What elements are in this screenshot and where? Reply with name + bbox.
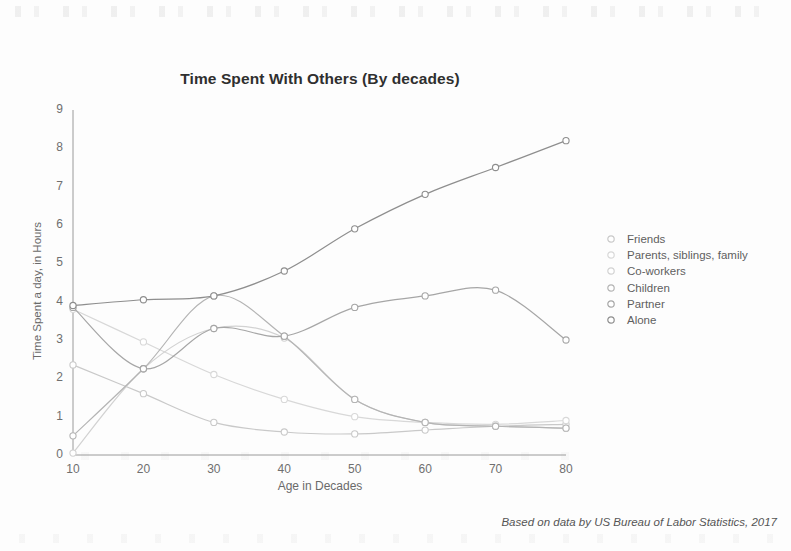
- y-tick-4: 4: [39, 294, 63, 308]
- legend-item-label: Children: [619, 282, 670, 294]
- legend-circle-marker-icon: [603, 265, 619, 277]
- data-point: [352, 431, 358, 437]
- data-point: [70, 433, 76, 439]
- data-point: [211, 371, 217, 377]
- data-point: [492, 423, 498, 429]
- axes: [73, 110, 566, 455]
- legend-item-friends[interactable]: Friends: [603, 231, 788, 247]
- data-point: [70, 450, 76, 456]
- legend-item-partner[interactable]: Partner: [603, 296, 788, 312]
- x-tick-20: 20: [123, 462, 163, 476]
- data-point: [140, 366, 146, 372]
- data-point: [281, 333, 287, 339]
- legend-item-label: Friends: [619, 233, 665, 245]
- y-tick-8: 8: [39, 140, 63, 154]
- y-tick-2: 2: [39, 370, 63, 384]
- data-point: [422, 427, 428, 433]
- data-point: [563, 417, 569, 423]
- legend-item-alone[interactable]: Alone: [603, 312, 788, 328]
- data-point: [281, 429, 287, 435]
- data-point: [422, 419, 428, 425]
- legend-circle-marker-icon: [603, 282, 619, 294]
- x-tick-60: 60: [405, 462, 445, 476]
- y-tick-9: 9: [39, 102, 63, 116]
- x-tick-50: 50: [335, 462, 375, 476]
- legend-item-label: Partner: [619, 298, 665, 310]
- y-tick-1: 1: [39, 409, 63, 423]
- legend-item-label: Parents, siblings, family: [619, 249, 748, 261]
- data-point: [422, 191, 428, 197]
- data-point: [70, 302, 76, 308]
- legend-circle-marker-icon: [603, 298, 619, 310]
- data-point: [352, 414, 358, 420]
- series-line: [73, 141, 566, 306]
- data-point: [492, 287, 498, 293]
- y-tick-5: 5: [39, 255, 63, 269]
- data-point: [422, 293, 428, 299]
- x-tick-70: 70: [476, 462, 516, 476]
- y-tick-3: 3: [39, 332, 63, 346]
- legend-item-label: Alone: [619, 314, 656, 326]
- x-tick-30: 30: [194, 462, 234, 476]
- data-point: [352, 304, 358, 310]
- data-point: [140, 339, 146, 345]
- data-point: [352, 226, 358, 232]
- data-point: [211, 419, 217, 425]
- y-tick-7: 7: [39, 179, 63, 193]
- data-series-group: [70, 138, 569, 457]
- data-point: [281, 396, 287, 402]
- series-line: [73, 309, 566, 424]
- data-point: [563, 337, 569, 343]
- x-tick-40: 40: [264, 462, 304, 476]
- legend-item-label: Co-workers: [619, 265, 686, 277]
- data-point: [281, 268, 287, 274]
- data-point: [140, 297, 146, 303]
- legend-item-children[interactable]: Children: [603, 280, 788, 296]
- data-point: [140, 391, 146, 397]
- legend-circle-marker-icon: [603, 233, 619, 245]
- data-point: [492, 164, 498, 170]
- series-alone: [70, 138, 569, 309]
- source-footnote: Based on data by US Bureau of Labor Stat…: [501, 516, 777, 528]
- legend-circle-marker-icon: [603, 314, 619, 326]
- legend-item-parents-siblings-family[interactable]: Parents, siblings, family: [603, 247, 788, 263]
- y-tick-6: 6: [39, 217, 63, 231]
- data-point: [70, 362, 76, 368]
- legend-circle-marker-icon: [603, 249, 619, 261]
- data-point: [563, 138, 569, 144]
- legend-item-co-workers[interactable]: Co-workers: [603, 263, 788, 279]
- y-tick-0: 0: [39, 447, 63, 461]
- data-point: [211, 325, 217, 331]
- chart-page: Time Spent With Others (By decades) Time…: [0, 0, 791, 551]
- x-axis-title: Age in Decades: [70, 479, 570, 493]
- chart-legend: FriendsParents, siblings, familyCo-worke…: [603, 231, 788, 328]
- series-line: [73, 295, 566, 436]
- x-tick-10: 10: [53, 462, 93, 476]
- data-point: [211, 293, 217, 299]
- x-tick-80: 80: [546, 462, 586, 476]
- data-point: [352, 396, 358, 402]
- data-point: [563, 425, 569, 431]
